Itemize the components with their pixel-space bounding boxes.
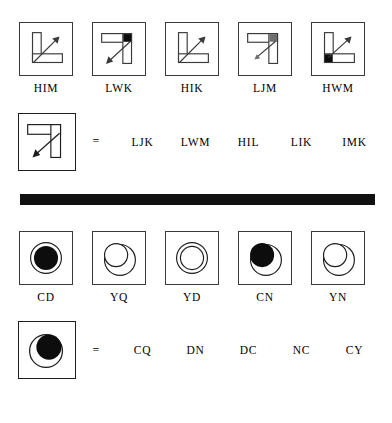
bracket-card-lwk[interactable]: LWK: [91, 22, 147, 95]
bracket-option-4[interactable]: LIK: [275, 136, 328, 148]
circle-black-upper-right-icon: [19, 322, 75, 378]
bracket-option-3[interactable]: HIL: [222, 136, 275, 148]
circle-query-row: = CQ DN DC NC CY: [0, 321, 392, 379]
l-bracket-black-corner-arrow-up-right-icon: [312, 23, 364, 75]
circle-option-1[interactable]: CQ: [116, 344, 169, 356]
divider-spacer: [0, 205, 392, 231]
seven-bracket-gray-corner-arrow-down-left-icon: [239, 23, 291, 75]
circle-card-label: CN: [256, 292, 273, 304]
figure-box: [92, 22, 146, 76]
figure-box: [238, 231, 292, 285]
circle-option-2[interactable]: DN: [169, 344, 222, 356]
circle-black-upper-left-icon: [239, 232, 291, 284]
figure-box: [165, 22, 219, 76]
figure-box: [238, 22, 292, 76]
bracket-card-label: HIM: [34, 83, 58, 95]
circle-card-label: YN: [329, 292, 347, 304]
circle-card-label: YQ: [110, 292, 128, 304]
bracket-card-row: HIM LWK: [0, 22, 392, 95]
figure-box: [311, 22, 365, 76]
bracket-query-row: = LJK LWM HIL LIK IMK: [0, 113, 392, 171]
puzzle-page: HIM LWK: [0, 0, 392, 423]
bracket-card-label: HWM: [322, 83, 354, 95]
figure-box: [311, 231, 365, 285]
circle-option-4[interactable]: NC: [275, 344, 328, 356]
bracket-card-him[interactable]: HIM: [18, 22, 74, 95]
circle-open-upper-left-icon: [93, 232, 145, 284]
bracket-equals-sign: =: [76, 134, 116, 149]
figure-box: [19, 231, 73, 285]
circle-open-upper-left-icon: [312, 232, 364, 284]
bracket-card-label: LWK: [105, 83, 132, 95]
bracket-option-2[interactable]: LWM: [169, 136, 222, 148]
row-two-spacer: [0, 303, 392, 321]
section-divider-wrap: [0, 194, 392, 205]
seven-bracket-black-corner-arrow-down-left-icon: [93, 23, 145, 75]
circle-option-list: CQ DN DC NC CY: [116, 344, 392, 356]
circle-option-5[interactable]: CY: [328, 344, 381, 356]
bracket-card-label: LJM: [253, 83, 277, 95]
figure-box: [92, 231, 146, 285]
figure-box: [19, 22, 73, 76]
row-one-spacer: [0, 95, 392, 113]
seven-bracket-no-fill-arrow-down-left-icon: [19, 114, 75, 170]
top-spacer: [0, 0, 392, 22]
circle-card-cn[interactable]: CN: [237, 231, 293, 304]
circle-open-center-icon: [166, 232, 218, 284]
circle-equals-sign: =: [76, 343, 116, 358]
bracket-option-5[interactable]: IMK: [328, 136, 381, 148]
circle-query-figure: [18, 321, 76, 379]
bracket-option-1[interactable]: LJK: [116, 136, 169, 148]
circle-card-row: CD YQ YD: [0, 231, 392, 304]
bracket-card-label: HIK: [181, 83, 204, 95]
circle-card-yd[interactable]: YD: [164, 231, 220, 304]
circle-black-center-icon: [20, 232, 72, 284]
query-one-spacer: [0, 171, 392, 194]
circle-option-3[interactable]: DC: [222, 344, 275, 356]
circle-card-cd[interactable]: CD: [18, 231, 74, 304]
circle-card-yq[interactable]: YQ: [91, 231, 147, 304]
bracket-query-figure: [18, 113, 76, 171]
circle-card-label: CD: [37, 292, 54, 304]
circle-card-label: YD: [183, 292, 201, 304]
l-bracket-no-fill-arrow-up-right-icon: [166, 23, 218, 75]
figure-box: [165, 231, 219, 285]
bracket-option-list: LJK LWM HIL LIK IMK: [116, 136, 392, 148]
circle-card-yn[interactable]: YN: [310, 231, 366, 304]
l-bracket-no-fill-arrow-up-right-icon: [20, 23, 72, 75]
section-divider: [20, 194, 375, 205]
bracket-card-hwm[interactable]: HWM: [310, 22, 366, 95]
bracket-card-ljm[interactable]: LJM: [237, 22, 293, 95]
bracket-card-hik[interactable]: HIK: [164, 22, 220, 95]
